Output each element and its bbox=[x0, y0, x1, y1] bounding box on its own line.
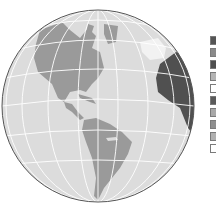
legend-swatch bbox=[210, 72, 216, 81]
legend-swatch bbox=[210, 144, 216, 153]
legend-swatch bbox=[210, 108, 216, 117]
legend-swatch bbox=[210, 96, 216, 105]
legend-swatch bbox=[210, 132, 216, 141]
globe-map bbox=[0, 8, 196, 204]
legend-swatch bbox=[210, 48, 216, 57]
legend-swatch bbox=[210, 84, 216, 93]
legend-swatch bbox=[210, 120, 216, 129]
legend-swatch bbox=[210, 60, 216, 69]
legend-swatch bbox=[210, 36, 216, 45]
